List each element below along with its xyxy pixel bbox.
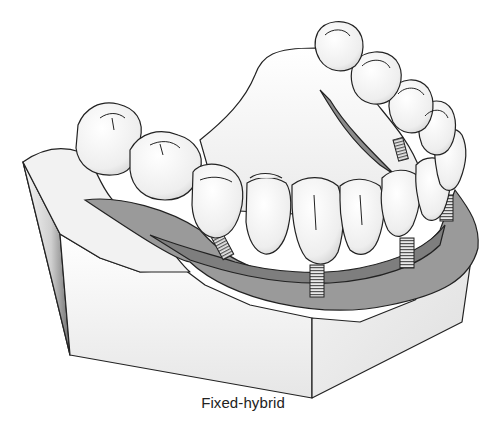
implant-3 <box>400 238 414 268</box>
figure-caption: Fixed-hybrid <box>0 394 494 411</box>
tooth-central-incisor-l <box>292 178 343 264</box>
dental-illustration <box>0 0 494 400</box>
tooth-central-incisor-r <box>340 179 384 254</box>
caption-text: Fixed-hybrid <box>201 394 285 411</box>
tooth-lateral-incisor-r <box>381 170 420 236</box>
implant-2 <box>310 265 324 297</box>
tooth-left-premolar <box>192 164 243 238</box>
tooth-left-canine <box>246 178 291 254</box>
tooth-molar-r-3 <box>315 22 363 71</box>
